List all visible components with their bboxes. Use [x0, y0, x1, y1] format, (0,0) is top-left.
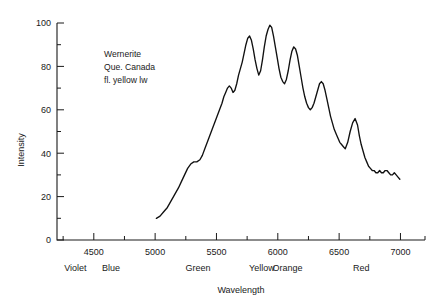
- color-band-label: Violet: [64, 263, 87, 273]
- annotation-line-1: Wernerite: [104, 49, 141, 59]
- x-tick-label: 4500: [84, 247, 104, 257]
- fluorescence-spectrum-figure: 020406080100 450050005500600065007000 Vi…: [0, 0, 446, 307]
- x-axis-ticks: [63, 233, 425, 240]
- color-band-label: Red: [353, 263, 370, 273]
- y-tick-label: 40: [41, 149, 51, 159]
- x-tick-label: 6500: [329, 247, 349, 257]
- y-tick-label: 100: [36, 18, 51, 28]
- y-tick-label: 80: [41, 62, 51, 72]
- color-band-labels: VioletBlueGreenYellowOrangeRed: [64, 263, 369, 273]
- annotation-line-3: fl. yellow lw: [104, 75, 148, 85]
- color-band-label: Yellow: [249, 263, 275, 273]
- x-tick-label: 5000: [145, 247, 165, 257]
- chart-canvas: 020406080100 450050005500600065007000 Vi…: [0, 0, 446, 307]
- x-axis-tick-labels: 450050005500600065007000: [84, 247, 411, 257]
- x-axis-title: Wavelength: [217, 285, 264, 295]
- color-band-label: Green: [186, 263, 211, 273]
- y-axis-ticks: [57, 23, 64, 240]
- annotation-line-2: Que. Canada: [104, 62, 155, 72]
- y-axis-tick-labels: 020406080100: [36, 18, 51, 245]
- color-band-label: Orange: [273, 263, 303, 273]
- color-band-label: Blue: [102, 263, 120, 273]
- x-tick-label: 6000: [268, 247, 288, 257]
- x-tick-label: 7000: [390, 247, 410, 257]
- y-tick-label: 0: [46, 235, 51, 245]
- spectrum-curve: [156, 25, 399, 218]
- y-axis-title: Intensity: [16, 133, 26, 167]
- x-tick-label: 5500: [206, 247, 226, 257]
- y-tick-label: 20: [41, 192, 51, 202]
- y-tick-label: 60: [41, 105, 51, 115]
